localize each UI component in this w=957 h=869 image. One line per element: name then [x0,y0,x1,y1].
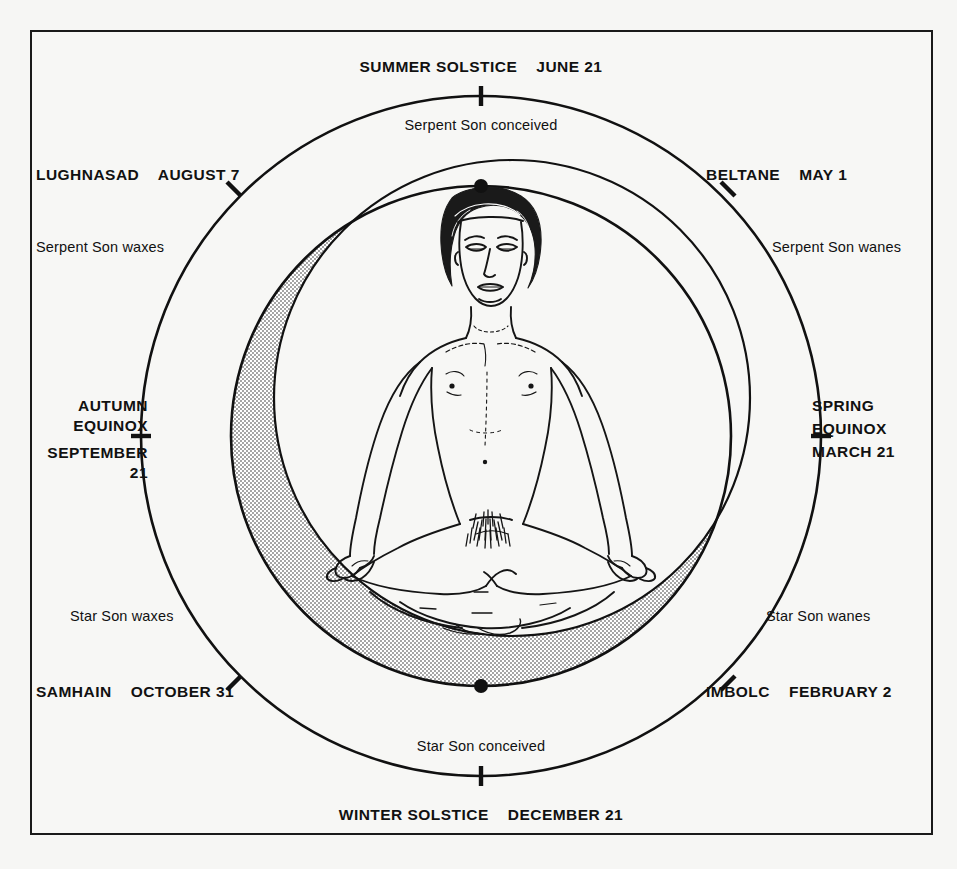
label-star-son-conceived: Star Son conceived [417,738,545,754]
label-autumn-equinox-line1: AUTUMN [78,397,148,414]
label-autumn-equinox-line2: EQUINOX [73,417,148,434]
label-serpent-son-waxes: Serpent Son waxes [36,239,164,255]
label-summer-solstice: SUMMER SOLSTICE JUNE 21 [360,58,603,75]
label-samhain: SAMHAIN OCTOBER 31 [36,683,234,700]
label-autumn-equinox-line4: 21 [130,464,148,481]
label-beltane: BELTANE MAY 1 [706,166,847,183]
label-spring-equinox-line1: SPRING [812,397,874,414]
dot-serpent-son-conceived [474,179,488,193]
label-winter-solstice: WINTER SOLSTICE DECEMBER 21 [339,806,623,823]
label-imbolc: IMBOLC FEBRUARY 2 [706,683,892,700]
dot-star-son-conceived [474,679,488,693]
label-star-son-waxes: Star Son waxes [70,608,174,624]
label-spring-equinox-line3: MARCH 21 [812,443,895,460]
label-autumn-equinox-line3: SEPTEMBER [47,444,148,461]
label-spring-equinox-line2: EQUINOX [812,420,887,437]
label-lughnasad: LUGHNASAD AUGUST 7 [36,166,240,183]
diagram-page: SUMMER SOLSTICE JUNE 21 Serpent Son conc… [0,0,957,869]
label-serpent-son-conceived: Serpent Son conceived [405,117,558,133]
label-star-son-wanes: Star Son wanes [766,608,870,624]
label-serpent-son-wanes: Serpent Son wanes [772,239,901,255]
